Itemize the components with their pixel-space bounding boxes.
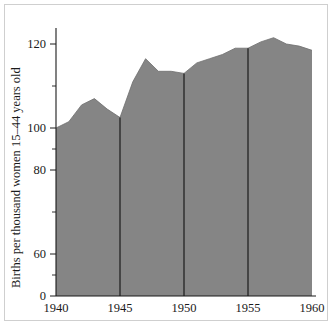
y-tick-label-60: 60 xyxy=(34,247,47,261)
x-tick-label-1940: 1940 xyxy=(44,301,69,315)
x-tick-label-1960: 1960 xyxy=(300,301,325,315)
chart-canvas: 120 100 80 60 0 1940 1945 1950 1955 1960… xyxy=(0,0,333,326)
y-tick-label-100: 100 xyxy=(27,121,46,135)
y-axis-title: Births per thousand women 15–44 years ol… xyxy=(9,66,23,288)
x-tick-label-1945: 1945 xyxy=(108,301,133,315)
y-tick-label-120: 120 xyxy=(27,37,46,51)
x-tick-label-1955: 1955 xyxy=(236,301,261,315)
birth-rate-area-chart: 120 100 80 60 0 1940 1945 1950 1955 1960… xyxy=(0,0,333,326)
x-tick-label-1950: 1950 xyxy=(172,301,197,315)
y-tick-label-80: 80 xyxy=(34,163,47,177)
